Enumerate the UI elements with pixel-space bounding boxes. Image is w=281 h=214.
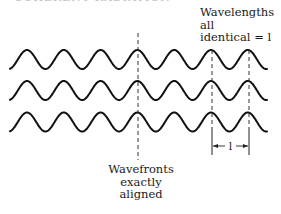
wavelengths-label-line-3: identical = l [200,31,274,44]
wavefronts-label: Wavefronts exactly aligned [100,163,182,201]
wavelengths-label-line-1: Wavelengths [200,6,274,19]
arrowhead-right-icon [243,144,248,148]
wavefronts-label-line-1: Wavefronts [100,163,182,176]
wave-1 [10,50,267,69]
wavefronts-label-line-3: aligned [100,188,182,201]
wavelength-dimension: l [213,140,248,153]
coherent-waves-diagram: COHERENT RADIATION l Wavelengths all ide… [0,0,281,214]
wave-3 [10,113,267,132]
arrowhead-left-icon [213,144,218,148]
wavelengths-label: Wavelengths all identical = l [200,6,274,44]
wavelength-symbol: l [229,140,233,153]
